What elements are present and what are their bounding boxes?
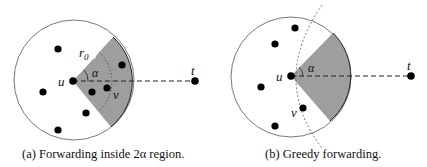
label-alpha-a: α xyxy=(92,66,99,80)
caption-a: (a) Forwarding inside 2α region. xyxy=(22,147,184,161)
label-alpha-b: α xyxy=(308,61,315,75)
figure-b: u t α v xyxy=(231,5,415,148)
label-v-a: v xyxy=(113,87,119,102)
diagram-canvas: u t r0 α v u t α v (a) Forwarding inside… xyxy=(0,0,427,167)
label-v-b: v xyxy=(291,105,297,120)
node-u-b xyxy=(287,72,295,80)
caption-b: (b) Greedy forwarding. xyxy=(265,147,381,161)
node-u-a xyxy=(69,77,77,85)
label-t-a: t xyxy=(191,63,195,78)
label-u-b: u xyxy=(276,69,283,84)
node-t-a xyxy=(191,77,199,85)
label-u-a: u xyxy=(58,74,65,89)
node-t-b xyxy=(407,72,415,80)
label-t-b: t xyxy=(407,58,411,73)
figure-a: u t r0 α v xyxy=(14,20,199,140)
